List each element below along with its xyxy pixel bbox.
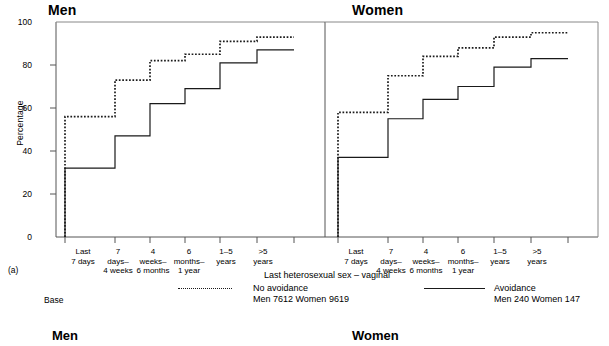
- series-women-no-avoidance: [338, 33, 568, 237]
- men-xtick-5-l1: >5: [258, 247, 267, 256]
- legend-base-no-avoidance: Men 7612 Women 9619: [253, 294, 349, 305]
- women-xtick-0-l1: Last: [348, 247, 363, 256]
- legend-swatch-avoidance: [424, 288, 485, 289]
- legend-label-no-avoidance: No avoidance: [253, 283, 308, 294]
- men-xtick-5: >5 years: [236, 247, 290, 266]
- data-series-layer: [65, 33, 568, 237]
- women-xtick-4-l1: 1–5: [493, 247, 506, 256]
- men-xtick-5-l2: years: [253, 257, 273, 266]
- men-xtick-4-l2: years: [216, 257, 236, 266]
- series-men-no-avoidance: [65, 37, 294, 237]
- legend-swatch-no-avoidance: [178, 288, 232, 289]
- series-women-avoidance: [338, 59, 568, 237]
- women-xtick-1-l1: 7: [389, 247, 393, 256]
- women-xtick-4-l2: years: [490, 257, 510, 266]
- men-x-ticks: [65, 237, 294, 243]
- men-xtick-4-l1: 1–5: [219, 247, 232, 256]
- women-xtick-5-l2: years: [527, 257, 547, 266]
- legend-title: Last heterosexual sex – vaginal: [264, 270, 390, 280]
- legend-label-avoidance: Avoidance: [494, 283, 536, 294]
- axes-men: [50, 22, 325, 243]
- figure-part-label: (a): [8, 265, 18, 275]
- men-xtick-0-l1: Last: [75, 247, 90, 256]
- women-x-ticks: [338, 237, 568, 243]
- men-xtick-1-l1: 7: [116, 247, 120, 256]
- legend-base-avoidance: Men 240 Women 147: [494, 294, 580, 305]
- women-xtick-3-l3: 1 year: [452, 266, 474, 275]
- series-men-avoidance: [65, 50, 294, 237]
- bottom-panel-title-women: Women: [352, 328, 399, 343]
- base-label: Base: [44, 295, 63, 305]
- axes-women: [325, 22, 598, 243]
- figure-cumulative-percentage: Men Women Percentage 100 80 60 40 20 0: [0, 0, 609, 346]
- bottom-panel-title-men: Men: [52, 328, 78, 343]
- women-xtick-5-l1: >5: [532, 247, 541, 256]
- women-xtick-3-l1: 6: [461, 247, 465, 256]
- men-xtick-3-l3: 1 year: [178, 266, 200, 275]
- men-xtick-2-l1: 4: [151, 247, 155, 256]
- men-xtick-3-l1: 6: [187, 247, 191, 256]
- women-xtick-2-l1: 4: [424, 247, 428, 256]
- women-xtick-5: >5 years: [510, 247, 564, 266]
